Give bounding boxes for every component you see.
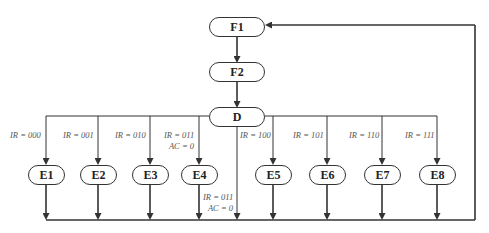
node-e3: E3 [132,165,169,185]
node-e7: E7 [364,165,401,185]
node-e8: E8 [419,165,456,185]
node-d: D [209,107,265,127]
condition-label-e1: IR = 000 [10,130,41,141]
node-e2: E2 [80,165,117,185]
condition-label-bypass: IR = 011 AC = 0 [203,192,233,214]
condition-label-bypass-line2: AC = 0 [203,203,233,214]
condition-label-e4: IR = 011 AC = 0 [164,130,194,152]
condition-label-e2: IR = 001 [63,130,94,141]
condition-label-e3: IR = 010 [115,130,146,141]
condition-label-e4-line2: AC = 0 [164,141,194,152]
node-e5: E5 [255,165,292,185]
condition-label-e7: IR = 110 [349,130,379,141]
node-e6: E6 [309,165,346,185]
condition-label-e6: IR = 101 [293,130,324,141]
condition-label-e4-line1: IR = 011 [164,130,194,141]
condition-label-e8: IR = 111 [405,130,435,141]
node-e1: E1 [28,165,65,185]
condition-label-bypass-line1: IR = 011 [203,192,233,203]
node-e4: E4 [181,165,218,185]
condition-label-e5: IR = 100 [240,130,271,141]
node-f1: F1 [209,17,265,37]
node-f2: F2 [209,62,265,82]
